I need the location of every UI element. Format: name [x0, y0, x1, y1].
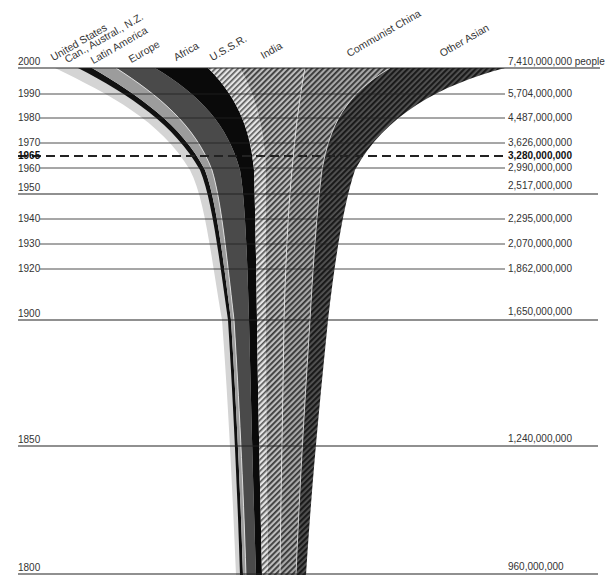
year-label-1960: 1960 — [18, 163, 40, 174]
year-label-2000: 2000 — [18, 56, 40, 67]
year-label-1900: 1900 — [18, 308, 40, 319]
population-label-1960: 2,990,000,000 — [508, 162, 572, 173]
population-label-1920: 1,862,000,000 — [508, 263, 572, 274]
year-label-1990: 1990 — [18, 88, 40, 99]
year-label-1920: 1920 — [18, 263, 40, 274]
year-label-1800: 1800 — [18, 562, 40, 573]
population-label-1990: 5,704,000,000 — [508, 88, 572, 99]
year-label-1940: 1940 — [18, 213, 40, 224]
year-label-1965: 1965 — [18, 150, 40, 161]
population-label-1930: 2,070,000,000 — [508, 238, 572, 249]
population-label-1950: 2,517,000,000 — [508, 180, 572, 191]
year-label-1980: 1980 — [18, 112, 40, 123]
population-label-1980: 4,487,000,000 — [508, 112, 572, 123]
population-label-1850: 1,240,000,000 — [508, 433, 572, 444]
year-label-1970: 1970 — [18, 137, 40, 148]
population-label-1970: 3,626,000,000 — [508, 137, 572, 148]
year-label-1850: 1850 — [18, 434, 40, 445]
population-label-2000: 7,410,000,000 people — [508, 56, 605, 67]
population-label-1940: 2,295,000,000 — [508, 213, 572, 224]
population-label-1900: 1,650,000,000 — [508, 306, 572, 317]
population-label-1965: 3,280,000,000 — [508, 150, 572, 161]
population-label-1800: 960,000,000 — [508, 561, 564, 572]
year-label-1950: 1950 — [18, 182, 40, 193]
year-label-1930: 1930 — [18, 238, 40, 249]
